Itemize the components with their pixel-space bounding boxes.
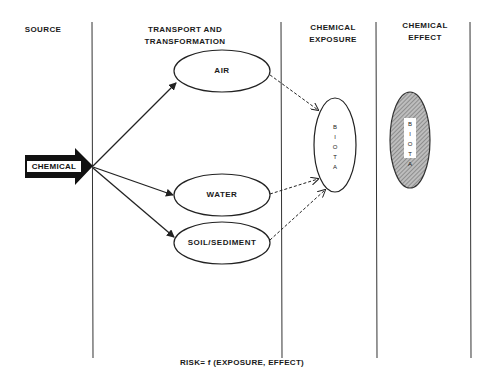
risk-formula: RISK= f (EXPOSURE, EFFECT) <box>180 358 340 367</box>
header-effect: CHEMICAL EFFECT <box>385 20 465 44</box>
header-source: SOURCE <box>8 24 78 36</box>
air-label: AIR <box>180 66 264 75</box>
water-label: WATER <box>180 190 264 199</box>
exposure-biota-label: B I O T A <box>329 122 341 172</box>
header-exposure: CHEMICAL EXPOSURE <box>293 22 373 46</box>
effect-biota-label: B I O T A <box>404 119 416 169</box>
divider-4 <box>470 22 471 358</box>
divider-3 <box>376 22 377 358</box>
chemical-label: CHEMICAL <box>27 161 81 172</box>
soil-sediment-label: SOIL/SEDIMENT <box>176 238 268 247</box>
divider-1 <box>92 22 93 358</box>
header-transport: TRANSPORT AND TRANSFORMATION <box>130 24 240 48</box>
